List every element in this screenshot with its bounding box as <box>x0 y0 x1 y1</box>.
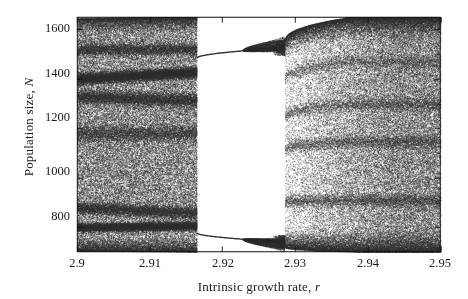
x-axis-label: Intrinsic growth rate, r <box>198 279 321 295</box>
x-axis-label-symbol: r <box>315 279 320 294</box>
xtick-label-2.95: 2.95 <box>417 256 463 271</box>
figure-container: 1600 1400 1200 1000 800 2.9 2.91 2.92 2.… <box>0 0 468 299</box>
xtick-label-2.91: 2.91 <box>127 256 173 271</box>
x-axis-label-wrapper: Intrinsic growth rate, r <box>77 277 441 295</box>
y-axis-label-wrapper: Population size, N <box>19 37 37 217</box>
xtick-label-2.9: 2.9 <box>54 256 100 271</box>
y-axis-label-symbol: N <box>21 78 36 87</box>
y-axis-label-text: Population size, <box>21 87 36 177</box>
y-axis-label: Population size, N <box>21 78 37 177</box>
xtick-label-2.93: 2.93 <box>272 256 318 271</box>
x-axis-label-text: Intrinsic growth rate, <box>198 279 315 294</box>
bifurcation-plot-canvas <box>0 0 468 299</box>
xtick-label-2.92: 2.92 <box>200 256 246 271</box>
ytick-label-1600: 1600 <box>30 21 70 36</box>
xtick-label-2.94: 2.94 <box>345 256 391 271</box>
